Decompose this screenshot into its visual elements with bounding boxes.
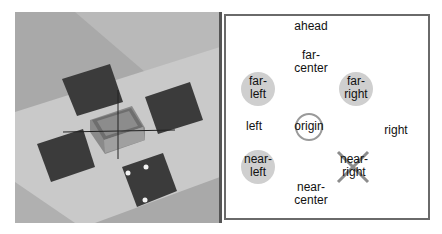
label-near-right: near- right xyxy=(334,153,374,179)
label-near-left: near- left xyxy=(238,153,278,179)
label-far-left: far- left xyxy=(238,75,278,101)
scene-render xyxy=(15,12,220,223)
label-left: left xyxy=(236,120,272,133)
label-right: right xyxy=(376,124,416,137)
label-far-right: far- right xyxy=(336,75,376,101)
label-far-center: far- center xyxy=(281,49,341,75)
label-ahead: ahead xyxy=(286,20,336,33)
label-origin: origin xyxy=(289,120,329,133)
spatial-map-panel: ahead far- center far- left far- right l… xyxy=(224,14,430,220)
label-near-center: near- center xyxy=(281,181,341,207)
scene-svg xyxy=(15,12,220,223)
panel-divider xyxy=(219,12,222,223)
